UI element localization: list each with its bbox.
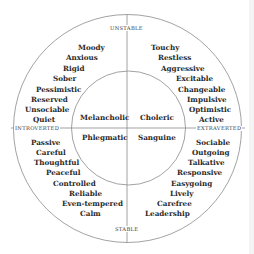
trait-reserved: Reserved [31, 96, 68, 103]
trait-leadership: Leadership [145, 210, 190, 217]
trait-thoughtful: Thoughtful [34, 159, 79, 166]
trait-sociable: Sociable [196, 139, 230, 146]
trait-anxious: Anxious [66, 54, 98, 61]
trait-passive: Passive [31, 139, 60, 146]
trait-carefree: Carefree [157, 200, 192, 207]
trait-unsociable: Unsociable [25, 106, 69, 113]
trait-reliable: Reliable [69, 190, 102, 197]
temperament-melancholic: Melancholic [80, 114, 129, 121]
temperament-phlegmatic: Phlegmatic [82, 134, 128, 141]
trait-impulsive: Impulsive [187, 96, 226, 103]
trait-touchy: Touchy [151, 44, 179, 51]
axis-label-introverted: INTROVERTED [14, 126, 60, 131]
trait-rigid: Rigid [63, 65, 85, 72]
trait-pessimistic: Pessimistic [36, 86, 81, 93]
trait-peaceful: Peaceful [46, 169, 80, 176]
trait-moody: Moody [78, 44, 105, 51]
trait-controlled: Controlled [53, 180, 96, 187]
trait-sober: Sober [53, 75, 76, 82]
trait-even-tempered: Even-tempered [62, 200, 123, 207]
axis-label-extraverted: EXTRAVERTED [196, 126, 242, 131]
temperament-choleric: Choleric [140, 114, 174, 121]
temperament-sanguine: Sanguine [138, 134, 176, 141]
trait-calm: Calm [80, 210, 101, 217]
temperament-diagram: UNSTABLE STABLE INTROVERTED EXTRAVERTED … [0, 0, 254, 254]
axis-label-unstable: UNSTABLE [109, 26, 144, 31]
trait-quiet: Quiet [33, 116, 55, 123]
trait-responsive: Responsive [177, 169, 222, 176]
trait-talkative: Talkative [188, 159, 224, 166]
trait-lively: Lively [170, 190, 193, 197]
trait-restless: Restless [158, 54, 191, 61]
axis-label-stable: STABLE [114, 227, 139, 232]
trait-excitable: Excitable [176, 75, 213, 82]
trait-changeable: Changeable [178, 86, 225, 93]
trait-easygoing: Easygoing [171, 180, 212, 187]
trait-aggressive: Aggressive [161, 65, 205, 72]
trait-optimistic: Optimistic [189, 106, 231, 113]
trait-careful: Careful [36, 149, 66, 156]
trait-outgoing: Outgoing [192, 149, 230, 156]
trait-active: Active [199, 116, 224, 123]
